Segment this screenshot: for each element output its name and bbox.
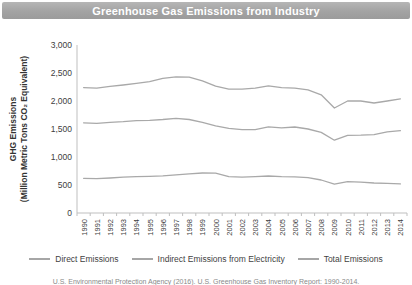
x-tick-label: 1995 [146,219,155,236]
x-tick-label: 1996 [159,219,168,236]
line-swatch-icon [132,258,153,260]
x-tick-label: 2006 [291,219,300,236]
series-line-indirect-emissions-from-electricity [84,173,401,184]
x-tick-label: 2003 [251,219,260,236]
x-tick-label: 2012 [370,219,379,236]
chart-page: { "title": "Greenhouse Gas Emissions fro… [0,0,412,285]
y-tick-label: 500 [58,180,72,190]
y-tick-label: 1,500 [51,124,73,134]
x-tick-label: 2001 [225,219,234,236]
y-tick-label: 0 [67,208,72,218]
series-line-total-emissions [84,77,401,108]
legend-item-direct-emissions: Direct Emissions [29,254,118,264]
x-tick-label: 2000 [212,219,221,236]
chart-plot-area: 05001,0001,5002,0002,5003,00019901991199… [0,0,412,285]
x-tick-label: 1999 [198,219,207,236]
chart-legend: Direct Emissions Indirect Emissions from… [0,253,412,265]
x-tick-label: 2009 [330,219,339,236]
x-tick-label: 2010 [344,219,353,236]
x-tick-label: 2005 [278,219,287,236]
x-tick-label: 2002 [238,219,247,236]
legend-item-total-emissions: Total Emissions [298,254,383,264]
x-tick-label: 2004 [264,219,273,236]
x-tick-label: 1997 [172,219,181,236]
legend-item-indirect-emissions: Indirect Emissions from Electricity [132,254,285,264]
x-tick-label: 1993 [119,219,128,236]
x-tick-label: 2011 [357,219,366,235]
line-swatch-icon [29,258,50,260]
legend-label: Indirect Emissions from Electricity [158,254,285,264]
x-tick-label: 1990 [80,219,89,236]
x-tick-label: 2008 [317,219,326,236]
x-tick-label: 2014 [396,219,405,236]
line-swatch-icon [298,258,319,260]
x-tick-label: 1994 [132,219,141,236]
x-tick-label: 1991 [93,219,102,236]
source-citation: U.S. Environmental Protection Agency (20… [0,278,412,285]
legend-label: Total Emissions [324,254,383,264]
y-tick-label: 1,000 [51,152,73,162]
y-tick-label: 3,000 [51,40,73,50]
x-tick-label: 1998 [185,219,194,236]
x-tick-label: 1992 [106,219,115,236]
legend-label: Direct Emissions [55,254,118,264]
x-tick-label: 2013 [383,219,392,236]
y-tick-label: 2,000 [51,96,73,106]
series-line-direct-emissions [84,118,401,140]
x-tick-label: 2007 [304,219,313,236]
y-tick-label: 2,500 [51,68,73,78]
